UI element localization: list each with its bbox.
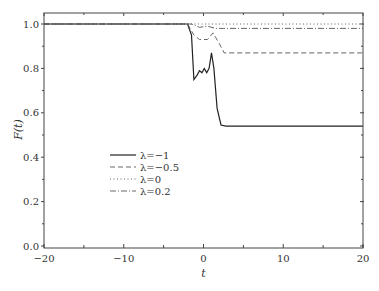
legend-label-1: λ=−0.5	[140, 162, 179, 173]
line-chart: −20−10010200.00.20.40.60.81.0tF(t) λ=−1λ…	[0, 0, 379, 291]
legend: λ=−1λ=−0.5λ=0λ=0.2	[110, 150, 179, 197]
axes: −20−10010200.00.20.40.60.81.0tF(t)	[12, 13, 369, 280]
plot-area	[44, 24, 363, 126]
axes-frame	[44, 13, 363, 248]
series-line-0	[44, 24, 363, 126]
x-axis-label: t	[201, 267, 206, 280]
y-tick-label: 1.0	[23, 19, 39, 30]
x-tick-label: 0	[200, 253, 206, 264]
y-tick-label: 0.2	[23, 196, 39, 207]
legend-label-2: λ=0	[140, 174, 161, 185]
legend-label-0: λ=−1	[140, 150, 169, 161]
y-tick-label: 0.0	[23, 241, 39, 252]
x-tick-label: −20	[33, 253, 54, 264]
legend-label-3: λ=0.2	[140, 186, 171, 197]
y-tick-label: 0.6	[23, 107, 39, 118]
x-tick-label: 20	[357, 253, 370, 264]
y-tick-label: 0.8	[23, 63, 39, 74]
x-tick-label: 10	[277, 253, 290, 264]
y-tick-label: 0.4	[23, 152, 39, 163]
x-tick-label: −10	[113, 253, 134, 264]
y-axis-label: F(t)	[12, 119, 25, 141]
series-line-3	[44, 24, 363, 28]
